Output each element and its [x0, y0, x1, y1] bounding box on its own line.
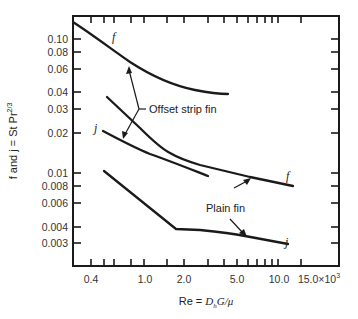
x-ticks-top — [91, 16, 301, 23]
x-axis-title: Re = DhG/μ — [179, 295, 234, 310]
y-tick-label: 0.03 — [48, 103, 69, 115]
label-plain-j: j — [283, 235, 289, 249]
plot-frame — [73, 16, 339, 266]
x-tick-labels: 0.4 1.0 2.0 5.0 10.0 15.0×103 — [84, 272, 340, 285]
arrowhead-icon — [126, 66, 132, 74]
curve-plain-j — [104, 171, 288, 244]
y-tick-label: 0.02 — [48, 127, 69, 139]
x-tick-label: 1.0 — [138, 273, 153, 285]
y-tick-label: 0.04 — [48, 86, 69, 98]
plain-fin-label: Plain fin — [206, 202, 245, 214]
x-tick-label: 5.0 — [230, 273, 245, 285]
label-offset-f: f — [112, 30, 117, 44]
curve-offset-strip-f — [73, 22, 228, 94]
y-tick-label: 0.008 — [42, 180, 68, 192]
arrowhead-icon — [122, 131, 128, 139]
y-ticks-left — [73, 39, 81, 243]
x-tick-label-last: 15.0×103 — [298, 272, 340, 285]
y-axis-title: f and j = St Pr2/3 — [6, 103, 19, 180]
chart-svg: 0.10 0.08 0.06 0.04 0.03 0.02 0.01 0.008… — [0, 0, 358, 319]
y-tick-label: 0.004 — [42, 221, 68, 233]
arrowhead-icon — [243, 178, 251, 185]
offset-strip-label: Offset strip fin — [149, 103, 217, 115]
x-tick-label: 10.0 — [269, 273, 290, 285]
plain-fin-annotation: Plain fin — [206, 178, 251, 237]
x-tick-label: 0.4 — [84, 273, 99, 285]
label-offset-j: j — [92, 121, 98, 135]
x-tick-label: 2.0 — [177, 273, 192, 285]
y-ticks-right — [331, 39, 339, 243]
offset-strip-annotation: Offset strip fin — [122, 66, 217, 139]
y-tick-label: 0.006 — [42, 197, 68, 209]
y-tick-label: 0.08 — [48, 46, 69, 58]
x-ticks-bottom — [91, 259, 301, 266]
y-tick-label: 0.10 — [48, 33, 69, 45]
y-tick-labels: 0.10 0.08 0.06 0.04 0.03 0.02 0.01 0.008… — [42, 33, 68, 249]
y-tick-label: 0.003 — [42, 237, 68, 249]
y-tick-label: 0.01 — [48, 167, 69, 179]
y-tick-label: 0.06 — [48, 63, 69, 75]
label-plain-f: f — [286, 169, 291, 183]
curve-offset-strip-j — [103, 131, 208, 176]
